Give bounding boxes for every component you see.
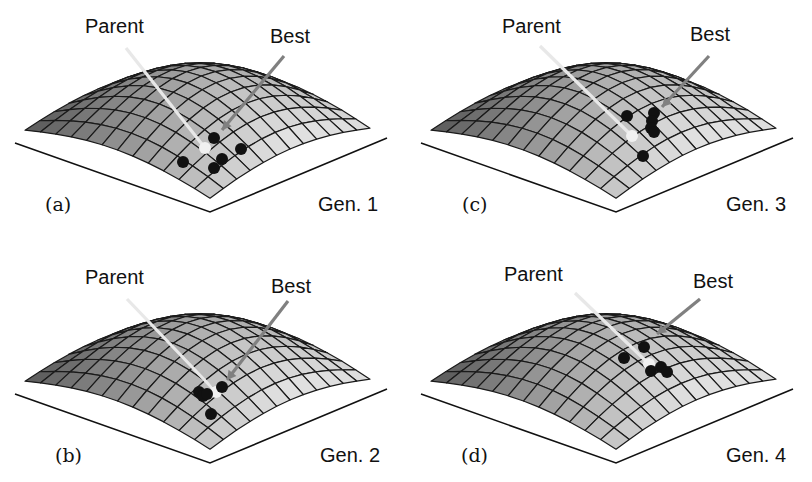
- best-label: Best: [690, 23, 730, 46]
- generation-label: Gen. 2: [320, 444, 380, 467]
- panel-c: Parent Best (c) Gen. 3: [406, 0, 812, 241]
- panel-letter: (a): [45, 193, 71, 215]
- best-label: Best: [271, 275, 311, 298]
- best-label: Best: [270, 25, 310, 48]
- panel-letter: (d): [461, 444, 488, 466]
- panel-b: Parent Best (b) Gen. 2: [0, 241, 406, 482]
- best-label: Best: [693, 270, 733, 293]
- generation-label: Gen. 4: [726, 444, 786, 467]
- panel-letter: (c): [462, 193, 487, 215]
- parent-label: Parent: [85, 266, 144, 289]
- panel-letter: (b): [55, 444, 82, 466]
- parent-label: Parent: [504, 263, 563, 286]
- generation-label: Gen. 3: [726, 193, 786, 216]
- generation-label: Gen. 1: [318, 193, 378, 216]
- parent-label: Parent: [502, 15, 561, 38]
- parent-label: Parent: [85, 15, 144, 38]
- panel-d: Parent Best (d) Gen. 4: [406, 241, 812, 482]
- panel-a: Parent Best (a) Gen. 1: [0, 0, 406, 241]
